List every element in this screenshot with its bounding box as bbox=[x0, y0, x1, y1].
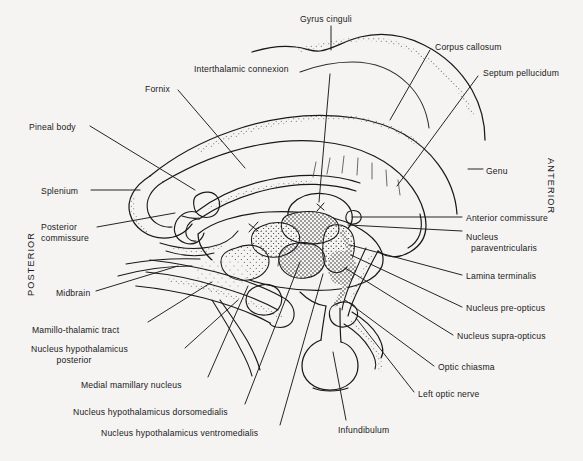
label-pineal-body: Pineal body bbox=[29, 122, 76, 133]
orientation-label-posterior: POSTERIOR bbox=[26, 232, 36, 296]
leader-lamina-terminalis bbox=[350, 245, 462, 275]
splenium bbox=[129, 176, 192, 238]
label-nucleus-hypothalamicus-dorsomedialis: Nucleus hypothalamicus dorsomedialis bbox=[73, 407, 228, 418]
leader-mamillo-thalamic bbox=[148, 282, 212, 322]
leader-fornix bbox=[178, 90, 245, 168]
infundibulum-stalk-right bbox=[340, 308, 341, 342]
pituitary-gland bbox=[302, 340, 358, 390]
label-splenium: Splenium bbox=[41, 186, 78, 197]
label-genu: Genu bbox=[486, 166, 508, 177]
leader-pineal-body bbox=[90, 126, 195, 190]
label-lamina-terminalis: Lamina terminalis bbox=[466, 271, 536, 282]
leader-septum-pellucidum bbox=[397, 76, 478, 186]
leader-optic-chiasma bbox=[345, 300, 434, 366]
leader-nucleus-hypo-post bbox=[185, 300, 238, 348]
leader-nucleus-paraventricularis bbox=[348, 225, 462, 231]
label-nucleus-paraventricularis: Nucleus paraventricularis bbox=[466, 232, 537, 253]
leader-midbrain bbox=[96, 266, 178, 291]
label-midbrain: Midbrain bbox=[56, 288, 90, 299]
label-nucleus-pre-opticus: Nucleus pre-opticus bbox=[466, 303, 545, 314]
tract-crosshair-2 bbox=[317, 203, 324, 211]
leader-infundibulum bbox=[333, 352, 346, 420]
tract-crosshair bbox=[249, 222, 258, 232]
label-corpus-callosum: Corpus callosum bbox=[435, 42, 502, 53]
brain-outline-group bbox=[118, 35, 485, 391]
splenium-inner bbox=[147, 182, 172, 227]
posterior-commissure-mark bbox=[182, 216, 199, 218]
genu-inner bbox=[408, 214, 421, 248]
label-optic-chiasma: Optic chiasma bbox=[438, 362, 495, 373]
leader-interthalamic bbox=[319, 74, 330, 202]
label-interthalamic-connexion: Interthalamic connexion bbox=[194, 64, 289, 75]
label-anterior-commissure: Anterior commissure bbox=[466, 213, 548, 224]
label-infundibulum: Infundibulum bbox=[338, 425, 389, 436]
orientation-label-anterior: ANTERIOR bbox=[546, 158, 556, 214]
label-mamillo-thalamic-tract: Mamillo-thalamic tract bbox=[32, 325, 119, 336]
label-nucleus-hypothalamicus-posterior: Nucleus hypothalamicus posterior bbox=[31, 344, 128, 365]
label-gyrus-cinguli: Gyrus cinguli bbox=[300, 14, 352, 25]
fornix-crus-inner bbox=[186, 219, 199, 241]
label-nucleus-hypothalamicus-ventromedialis: Nucleus hypothalamicus ventromedialis bbox=[101, 428, 258, 439]
figure-page: Gyrus cinguli Corpus callosum Septum pel… bbox=[0, 0, 583, 461]
label-fornix: Fornix bbox=[145, 84, 170, 95]
splenium-stipple bbox=[133, 196, 147, 231]
tuber-cinereum bbox=[300, 292, 326, 306]
midbrain-under-b bbox=[118, 266, 192, 276]
hypothalamic-nuclei-group bbox=[196, 212, 357, 293]
infundibulum-stalk-left bbox=[321, 306, 326, 340]
label-septum-pellucidum: Septum pellucidum bbox=[483, 68, 559, 79]
label-nucleus-supra-opticus: Nucleus supra-opticus bbox=[457, 331, 546, 342]
label-medial-mamillary-nucleus: Medial mamillary nucleus bbox=[81, 380, 182, 391]
label-left-optic-nerve: Left optic nerve bbox=[418, 389, 480, 400]
label-posterior-commissure: Posterior commissure bbox=[41, 222, 89, 243]
